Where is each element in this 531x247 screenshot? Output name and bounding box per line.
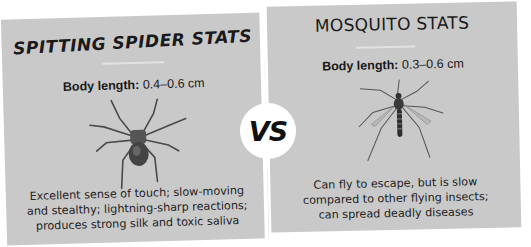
versus-label: VS bbox=[249, 116, 287, 147]
body-length-value: 0.3–0.6 cm bbox=[402, 57, 464, 72]
mosquito-panel-title: MOSQUITO STATS bbox=[267, 11, 517, 36]
title-divider bbox=[356, 46, 416, 49]
title-divider bbox=[102, 61, 164, 65]
mosquito-body-length: Body length: 0.3–0.6 cm bbox=[268, 55, 518, 74]
versus-badge: VS bbox=[240, 103, 296, 159]
mosquito-description: Can fly to escape, but is slow compared … bbox=[280, 174, 511, 224]
body-length-label: Body length: bbox=[322, 58, 399, 74]
spider-illustration bbox=[81, 94, 194, 197]
body-length-label: Body length: bbox=[63, 78, 140, 94]
mosquito-illustration bbox=[346, 77, 458, 174]
mosquito-stats-panel: MOSQUITO STATS Body length: 0.3–0.6 cm bbox=[267, 1, 522, 232]
body-length-value: 0.4–0.6 cm bbox=[143, 76, 205, 92]
spider-description: Excellent sense of touch; slow-moving an… bbox=[16, 183, 259, 235]
spider-panel-title: SPITTING SPIDER STATS bbox=[1, 25, 264, 59]
spider-stats-panel: SPITTING SPIDER STATS Body length: 0.4–0… bbox=[1, 12, 269, 245]
spider-body-length: Body length: 0.4–0.6 cm bbox=[3, 74, 265, 95]
